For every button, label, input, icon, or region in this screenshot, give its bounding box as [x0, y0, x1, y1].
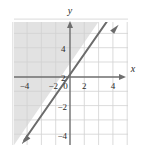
y-axis-label: y: [67, 5, 73, 16]
y-tick-label-2: 2: [61, 73, 66, 83]
x-tick-label-4: 4: [111, 81, 116, 91]
y-tick-label--2: −2: [57, 102, 67, 112]
graph-svg: −4 −2 0 2 4 4 2 −2 −4 x y: [0, 0, 143, 154]
y-tick-label--4: −4: [57, 131, 67, 141]
x-tick-label--4: −4: [20, 81, 30, 91]
x-axis-label: x: [130, 63, 136, 74]
coordinate-plane-figure: −4 −2 0 2 4 4 2 −2 −4 x y: [0, 0, 143, 154]
x-tick-label-2: 2: [82, 81, 87, 91]
y-tick-label-4: 4: [61, 44, 66, 54]
x-tick-label--2: −2: [48, 81, 58, 91]
